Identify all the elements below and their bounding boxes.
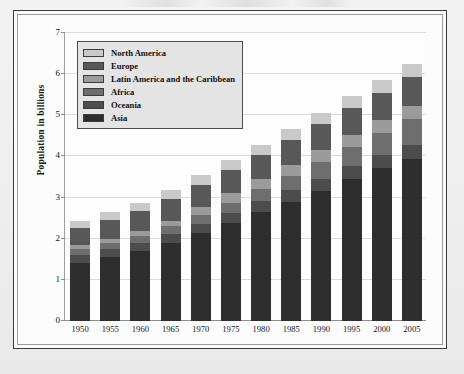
bar-stack[interactable] [402,33,422,321]
bar-segment[interactable] [311,150,331,162]
chart-area: Population in billions 01234567 19501955… [18,15,442,344]
bar-segment[interactable] [70,228,90,245]
bar-segment[interactable] [281,202,301,321]
bar-segment[interactable] [221,193,241,202]
legend-item[interactable]: Africa [83,85,237,98]
bar-segment[interactable] [281,129,301,140]
bar-segment[interactable] [342,96,362,108]
x-axis-tick-label: 1980 [252,324,269,334]
legend-swatch [83,88,104,96]
bar-segment[interactable] [161,226,181,233]
bar-segment[interactable] [342,166,362,178]
bar-segment[interactable] [100,249,120,257]
bar-segment[interactable] [70,255,90,263]
bar-segment[interactable] [372,133,392,155]
bar-segment[interactable] [402,106,422,120]
legend-item[interactable]: Europe [83,59,237,72]
bar-segment[interactable] [402,77,422,106]
bar-segment[interactable] [161,234,181,243]
bar-stack[interactable] [342,33,362,321]
legend-label: Latin America and the Caribbean [111,74,235,84]
bar-segment[interactable] [191,215,211,224]
legend-item[interactable]: North America [83,46,237,59]
bar-segment[interactable] [342,147,362,166]
bar-segment[interactable] [342,179,362,321]
bar-segment[interactable] [161,190,181,199]
bar-stack[interactable] [311,33,331,321]
bar-segment[interactable] [402,119,422,145]
bar-segment[interactable] [402,64,422,77]
bar-segment[interactable] [70,221,90,228]
bar-segment[interactable] [281,176,301,190]
bar-segment[interactable] [130,243,150,251]
chart-legend: North AmericaEuropeLatin America and the… [77,41,243,129]
bar-segment[interactable] [191,207,211,214]
bar-segment[interactable] [311,191,331,321]
legend-swatch [83,101,104,109]
bar-stack[interactable] [251,33,271,321]
bar-segment[interactable] [100,243,120,249]
y-axis-tick-label: 6 [56,68,61,78]
y-axis-title: Population in billions [36,45,46,215]
bar-segment[interactable] [311,162,331,179]
bar-segment[interactable] [130,251,150,321]
bar-segment[interactable] [221,213,241,223]
bar-segment[interactable] [221,203,241,213]
bar-segment[interactable] [311,113,331,125]
bar-segment[interactable] [70,263,90,321]
bar-segment[interactable] [281,140,301,165]
bar-segment[interactable] [161,199,181,221]
bar-segment[interactable] [100,212,120,220]
bar-segment[interactable] [221,223,241,321]
bar-segment[interactable] [100,220,120,239]
bar-stack[interactable] [372,33,392,321]
legend-item[interactable]: Oceania [83,98,237,111]
y-axis-tick-label: 2 [56,233,61,243]
bar-segment[interactable] [191,233,211,321]
bar-segment[interactable] [130,211,150,231]
bar-segment[interactable] [372,168,392,321]
bar-segment[interactable] [161,221,181,227]
legend-swatch [83,62,104,70]
bar-segment[interactable] [311,124,331,150]
legend-swatch [83,114,104,122]
bar-segment[interactable] [372,120,392,133]
bar-segment[interactable] [372,155,392,168]
bar-segment[interactable] [251,179,271,189]
bar-segment[interactable] [281,165,301,176]
bar-segment[interactable] [372,93,392,121]
legend-label: Asia [111,113,127,123]
bar-segment[interactable] [251,212,271,321]
bar-segment[interactable] [342,108,362,135]
bar-segment[interactable] [281,190,301,202]
legend-item[interactable]: Latin America and the Caribbean [83,72,237,85]
bar-segment[interactable] [191,175,211,185]
bar-segment[interactable] [311,179,331,191]
x-axis-tick-label: 2000 [373,324,390,334]
bar-stack[interactable] [281,33,301,321]
bar-segment[interactable] [70,249,90,254]
legend-item[interactable]: Asia [83,111,237,124]
legend-label: North America [111,48,166,58]
bar-segment[interactable] [402,145,422,159]
bar-segment[interactable] [251,189,271,201]
bar-segment[interactable] [251,145,271,156]
bar-segment[interactable] [70,245,90,249]
bar-segment[interactable] [251,201,271,212]
bar-segment[interactable] [130,236,150,243]
bar-segment[interactable] [251,155,271,179]
bar-segment[interactable] [161,243,181,321]
figure-frame-inner: Population in billions 01234567 19501955… [17,14,443,345]
bar-segment[interactable] [100,239,120,244]
bar-segment[interactable] [130,203,150,212]
bar-segment[interactable] [130,231,150,236]
bar-segment[interactable] [402,159,422,322]
bar-segment[interactable] [191,224,211,233]
bar-segment[interactable] [191,185,211,208]
bar-segment[interactable] [100,257,120,321]
bar-segment[interactable] [342,135,362,147]
bar-segment[interactable] [221,160,241,170]
legend-swatch [83,75,104,83]
bar-segment[interactable] [221,170,241,193]
bar-segment[interactable] [372,80,392,92]
